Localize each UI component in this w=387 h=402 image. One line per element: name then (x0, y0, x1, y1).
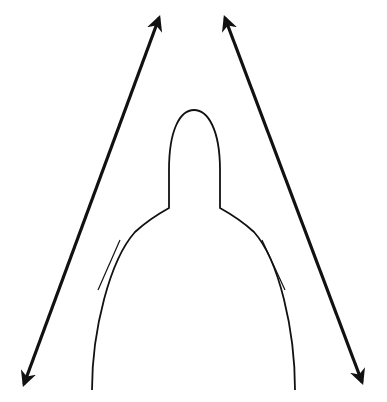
diagram-svg (0, 0, 387, 402)
left-tangent-arrow (24, 18, 159, 384)
right-tangent-thin-line (262, 240, 285, 290)
dome-outline (92, 110, 295, 390)
right-tangent-arrow (225, 18, 362, 382)
diagram-canvas (0, 0, 387, 402)
